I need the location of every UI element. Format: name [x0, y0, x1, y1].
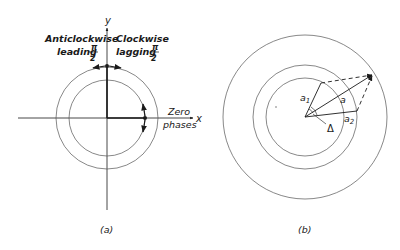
caption-a: (a)	[100, 224, 113, 235]
label-a2: a2	[344, 113, 355, 126]
angle-arc-1	[309, 109, 313, 113]
right-dot	[143, 116, 147, 120]
down-arrow	[143, 120, 145, 132]
leading-pi: π	[91, 43, 98, 52]
zero-label: Zero	[167, 106, 190, 117]
phasor-diagram-canvas: y x Anticlockwise leading π 2 Clockwise …	[0, 0, 400, 250]
caption-b: (b)	[298, 224, 311, 235]
up-arrow	[143, 104, 145, 116]
phases-label: phases	[162, 119, 197, 130]
anticlockwise-label: Anticlockwise	[44, 33, 119, 44]
stray-dot	[275, 106, 276, 107]
panel-a: y x Anticlockwise leading π 2 Clockwise …	[18, 15, 202, 235]
label-a: a	[340, 94, 346, 105]
top-dot	[105, 64, 109, 68]
leading-two: 2	[90, 54, 96, 63]
panel-b: a1 a a2 Δ (b)	[223, 35, 387, 235]
y-axis-label: y	[104, 15, 112, 26]
dashed-edge-from-a1	[321, 75, 372, 83]
lagging-pi: π	[152, 43, 159, 52]
label-a1: a1	[300, 92, 310, 105]
lagging-two: 2	[151, 54, 157, 63]
clockwise-label: Clockwise	[116, 33, 169, 44]
dashed-edge-from-a2	[357, 76, 372, 111]
label-delta: Δ	[327, 123, 334, 134]
